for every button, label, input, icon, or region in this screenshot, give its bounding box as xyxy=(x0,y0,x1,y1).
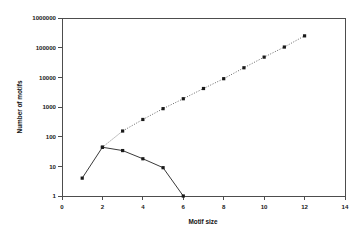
data-point-marker xyxy=(121,149,124,152)
y-tick-label: 10000 xyxy=(39,74,57,81)
y-tick-marks xyxy=(58,18,62,196)
y-tick-label: 1000000 xyxy=(32,14,56,21)
data-point-marker xyxy=(182,97,185,100)
series-solid-lower-series xyxy=(81,146,185,198)
y-tick-label: 100000 xyxy=(36,44,57,51)
x-tick-marks xyxy=(62,196,345,200)
data-point-marker xyxy=(81,177,84,180)
x-tick-label: 12 xyxy=(301,203,308,210)
data-point-marker xyxy=(161,166,164,169)
data-point-marker xyxy=(222,77,225,80)
line-chart: 1000000 100000 10000 1000 100 10 1 0 2 4… xyxy=(0,0,363,235)
series-dotted-upper-series xyxy=(101,34,306,149)
data-point-marker xyxy=(121,129,124,132)
y-tick-label: 1000 xyxy=(42,103,56,110)
chart-figure: 1000000 100000 10000 1000 100 10 1 0 2 4… xyxy=(0,0,363,235)
data-point-marker xyxy=(283,45,286,48)
data-point-marker xyxy=(242,66,245,69)
series-line xyxy=(102,36,304,147)
data-point-marker xyxy=(303,34,306,37)
series-line xyxy=(82,147,183,196)
series-layer xyxy=(81,34,307,197)
x-tick-labels: 0 2 4 6 8 10 12 14 xyxy=(60,203,349,210)
x-tick-label: 0 xyxy=(60,203,64,210)
x-tick-label: 8 xyxy=(222,203,226,210)
x-axis-title: Motif size xyxy=(188,218,218,225)
data-point-marker xyxy=(141,157,144,160)
x-tick-label: 6 xyxy=(182,203,186,210)
x-tick-label: 10 xyxy=(261,203,268,210)
y-tick-label: 100 xyxy=(46,133,57,140)
data-point-marker xyxy=(202,87,205,90)
y-tick-label: 10 xyxy=(49,163,56,170)
y-axis-title: Number of motifs xyxy=(16,80,23,133)
x-tick-label: 4 xyxy=(141,203,145,210)
data-point-marker xyxy=(263,56,266,59)
axis-frame xyxy=(62,18,345,196)
x-tick-label: 14 xyxy=(342,203,349,210)
y-tick-labels: 1000000 100000 10000 1000 100 10 1 xyxy=(32,14,56,199)
data-point-marker xyxy=(101,146,104,149)
data-point-marker xyxy=(141,118,144,121)
data-point-marker xyxy=(161,107,164,110)
x-tick-label: 2 xyxy=(101,203,105,210)
y-tick-label: 1 xyxy=(53,192,57,199)
data-point-marker xyxy=(182,194,185,197)
